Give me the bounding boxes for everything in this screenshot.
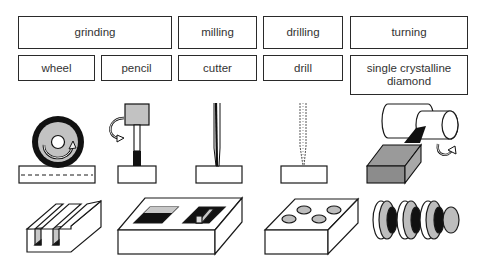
pocketed-block-icon xyxy=(118,198,242,254)
turned-cylinder-icon xyxy=(373,201,459,239)
turning-diamond-tool-icon xyxy=(367,104,458,183)
grinding-pencil-icon xyxy=(110,104,156,183)
process-illustrations xyxy=(0,0,485,268)
grinding-wheel-icon xyxy=(19,116,95,183)
drill-icon xyxy=(281,103,327,183)
grooved-block-icon xyxy=(27,201,101,252)
milling-cutter-icon xyxy=(196,103,242,183)
drilled-block-icon xyxy=(265,199,358,254)
